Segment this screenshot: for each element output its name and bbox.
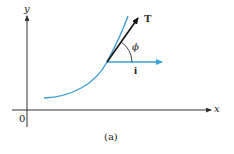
tangent-label: T bbox=[144, 13, 151, 24]
figure-caption: (a) bbox=[104, 132, 118, 142]
x-axis-label: x bbox=[214, 104, 220, 114]
angle-label: ϕ bbox=[132, 42, 139, 52]
figure: y x 0 T i ϕ (a) bbox=[0, 0, 234, 154]
curve bbox=[44, 16, 128, 98]
angle-arc bbox=[121, 42, 132, 62]
tangent-vector-T bbox=[107, 18, 138, 62]
unit-vector-label: i bbox=[134, 65, 137, 76]
y-axis-label: y bbox=[24, 4, 30, 14]
origin-label: 0 bbox=[19, 114, 25, 124]
